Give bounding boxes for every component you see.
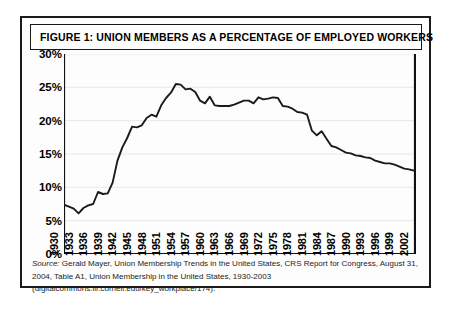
- union-membership-series: [64, 84, 414, 213]
- x-axis-tick-label: 1978: [281, 232, 293, 256]
- x-axis-tick-label: 1990: [340, 232, 352, 256]
- x-axis-tick-label: 1966: [223, 232, 235, 256]
- gridlines: [64, 54, 416, 221]
- x-axis-tick-label: 1936: [77, 232, 89, 256]
- x-axis-tick-label: 1951: [150, 232, 162, 256]
- x-axis-labels: 1930193319361939194219451948195119541957…: [64, 254, 416, 256]
- x-axis-tick-label: 1987: [325, 232, 337, 256]
- x-axis-tick-label: 1981: [296, 232, 308, 256]
- x-axis-tick-label: 1945: [121, 232, 133, 256]
- x-axis-tick-label: 1993: [354, 232, 366, 256]
- x-axis-tick-label: 1972: [252, 232, 264, 256]
- x-axis-tick-label: 1948: [136, 232, 148, 256]
- union-membership-line-chart: [64, 54, 416, 254]
- x-axis-tick-label: 1996: [369, 232, 381, 256]
- x-axis-tick-label: 1975: [267, 232, 279, 256]
- x-axis-tick-label: 1963: [208, 232, 220, 256]
- page-title: FIGURE 1: UNION MEMBERS AS A PERCENTAGE …: [31, 31, 433, 43]
- x-axis-tick-label: 1939: [92, 232, 104, 256]
- x-axis-tick-label: 1933: [63, 232, 75, 256]
- figure-title-box: FIGURE 1: UNION MEMBERS AS A PERCENTAGE …: [30, 24, 422, 50]
- source-note: Source: Gerald Mayer, Union Membership T…: [32, 258, 420, 296]
- chart-plot-area: 30%25%20%15%10%5%0%: [22, 54, 429, 254]
- y-axis-tick-label: 20%: [39, 115, 62, 127]
- x-axis-tick-label: 1960: [194, 232, 206, 256]
- x-axis-tick-label: 1957: [179, 232, 191, 256]
- x-axis-tick-label: 1930: [48, 232, 60, 256]
- x-axis-tick-label: 1969: [238, 232, 250, 256]
- y-axis-tick-label: 10%: [39, 181, 62, 193]
- chart-canvas: [64, 54, 416, 254]
- figure-container: FIGURE 1: UNION MEMBERS AS A PERCENTAGE …: [20, 16, 431, 288]
- x-axis-tick-label: 1984: [311, 232, 323, 256]
- y-axis-tick-label: 15%: [39, 148, 62, 160]
- x-axis-tick-label: 1999: [383, 232, 395, 256]
- y-axis-labels: 30%25%20%15%10%5%0%: [22, 54, 62, 254]
- y-axis-tick-label: 25%: [39, 81, 62, 93]
- y-axis-tick-label: 5%: [45, 215, 62, 227]
- x-axis-tick-label: 1942: [106, 232, 118, 256]
- x-axis-tick-label: 1954: [165, 232, 177, 256]
- source-label: Source:: [32, 259, 60, 268]
- x-axis-tick-label: 2002: [398, 232, 410, 256]
- source-citation: Gerald Mayer, Union Membership Trends in…: [32, 259, 418, 293]
- y-axis-tick-label: 30%: [39, 48, 62, 60]
